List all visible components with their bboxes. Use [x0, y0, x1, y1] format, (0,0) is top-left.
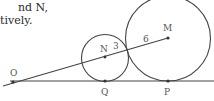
point-n — [104, 56, 107, 59]
label-o: O — [10, 68, 17, 78]
circle-m — [126, 0, 211, 81]
label-segment-6: 6 — [143, 34, 149, 44]
point-o — [11, 80, 14, 83]
label-m: M — [163, 23, 172, 33]
label-q: Q — [101, 87, 108, 97]
point-m — [166, 36, 169, 39]
point-p — [166, 79, 169, 82]
label-segment-3: 3 — [113, 41, 119, 51]
label-n: N — [100, 44, 108, 54]
point-q — [103, 79, 106, 82]
label-p: P — [164, 87, 170, 97]
geometry-diagram: O N M Q P 3 6 — [0, 0, 214, 101]
